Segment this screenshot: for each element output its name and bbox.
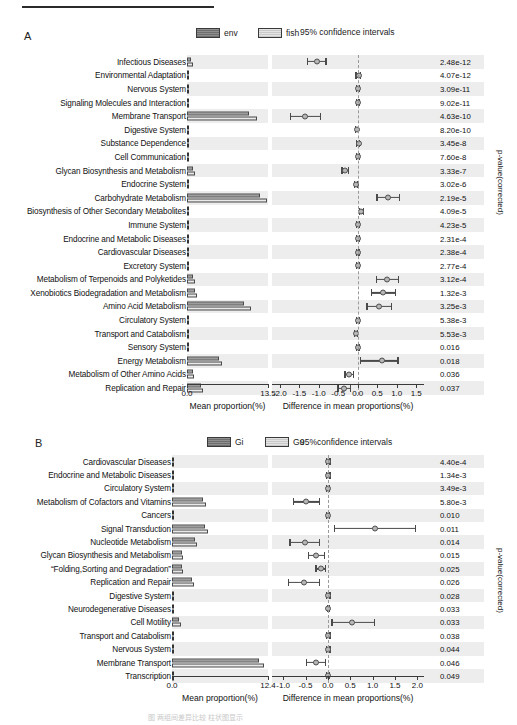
- category-label: Endocrine and Metabolic Diseases: [63, 234, 186, 243]
- row-band: [187, 55, 268, 69]
- bar-env: [187, 343, 189, 347]
- bar-pair: [172, 618, 181, 627]
- plot-row: Environmental Adaptation4.07e-12: [0, 69, 517, 83]
- bar-fish: [187, 212, 189, 216]
- plot-row: Endocrine and Metabolic Diseases2.31e-4: [0, 232, 517, 246]
- category-label: Nucleotide Metabolism: [90, 538, 171, 547]
- category-label: Cardiovascular Diseases: [83, 457, 171, 466]
- bar-fish: [187, 62, 193, 66]
- bar-pair: [187, 356, 222, 365]
- category-label: Cell Motility: [130, 618, 171, 627]
- panel-b-left-axis-title: Mean proportion(%): [172, 693, 268, 703]
- pvalue-label: 3.25e-3: [440, 302, 466, 311]
- ci-cap: [395, 289, 396, 296]
- plot-row: Cardiovascular Diseases2.38e-4: [0, 245, 517, 259]
- bar-gu: [172, 476, 174, 480]
- bar-pair: [187, 152, 189, 161]
- axis-line: [172, 676, 268, 677]
- plot-row: Neurodegenerative Diseases0.033: [0, 602, 517, 615]
- axis-tick-label: 0.5: [372, 389, 383, 398]
- bar-pair: [187, 57, 193, 66]
- confidence-interval-marker: [359, 207, 364, 216]
- ci-cap: [319, 579, 320, 586]
- bar-env: [187, 166, 193, 170]
- plot-row: Metabolism of Terpenoids and Polyketides…: [0, 273, 517, 287]
- zero-reference-line: [358, 55, 359, 395]
- panel-b-right-axis: -1.0-0.50.00.51.01.52.0: [272, 676, 424, 686]
- ci-cap: [307, 58, 308, 65]
- axis-tick: [319, 384, 320, 388]
- category-label: Circulatory System: [119, 316, 186, 325]
- plot-row: Metabolism of Other Amino Acids0.036: [0, 368, 517, 382]
- bar-gu: [172, 489, 174, 493]
- ci-cap: [324, 552, 325, 559]
- axis-tick: [172, 676, 173, 680]
- plot-row: Membrane Transport4.63e-10: [0, 109, 517, 123]
- bar-gu: [172, 529, 208, 533]
- category-label: Membrane Transport: [112, 112, 186, 121]
- bar-gu: [172, 609, 174, 613]
- bar-env: [187, 302, 244, 306]
- bar-env: [187, 180, 189, 184]
- bar-env: [187, 329, 189, 333]
- bar-pair: [172, 578, 194, 587]
- confidence-interval-marker: [344, 370, 353, 379]
- bar-fish: [187, 225, 189, 229]
- axis-tick-label: 1.5: [389, 681, 400, 690]
- pvalue-label: 9.02e-11: [440, 98, 470, 107]
- bar-gi: [172, 645, 174, 649]
- bar-env: [187, 98, 189, 102]
- row-band: [187, 273, 268, 287]
- bar-pair: [187, 166, 195, 175]
- legend-item-fish: fish: [258, 28, 299, 38]
- ci-cap: [376, 276, 377, 283]
- pvalue-label: 0.025: [440, 564, 460, 573]
- bar-env: [187, 316, 189, 320]
- pvalue-label: 0.033: [440, 618, 460, 627]
- bar-pair: [172, 457, 174, 466]
- panel-b-left-axis: 0.012.4: [172, 676, 268, 686]
- bar-pair: [187, 261, 189, 270]
- bar-env: [187, 152, 189, 156]
- legend-swatch-icon: [196, 28, 220, 38]
- bar-pair: [187, 125, 189, 134]
- plot-row: Endocrine System3.02e-6: [0, 177, 517, 191]
- category-label: Transport and Catabolism: [95, 329, 187, 338]
- category-label: Glycan Biosynthesis and Metabolism: [56, 166, 186, 175]
- category-label: Substance Dependence: [101, 139, 186, 148]
- bar-gu: [172, 462, 174, 466]
- category-label: Nervous System: [112, 645, 171, 654]
- plot-row: Biosynthesis of Other Secondary Metaboli…: [0, 205, 517, 219]
- ci-cap: [325, 659, 326, 666]
- bar-gi: [172, 471, 174, 475]
- bar-env: [187, 275, 193, 279]
- pvalue-label: 0.015: [440, 551, 460, 560]
- pvalue-label: 0.014: [440, 538, 460, 547]
- bar-env: [187, 220, 189, 224]
- plot-row: Membrane Transport0.046: [0, 656, 517, 669]
- bar-fish: [187, 334, 189, 338]
- pvalue-label: 0.011: [440, 524, 459, 533]
- bar-fish: [187, 117, 257, 121]
- category-label: Transcription: [125, 671, 171, 680]
- bar-fish: [187, 103, 189, 107]
- plot-row: Amino Acid Metabolism3.25e-3: [0, 300, 517, 314]
- category-label: Energy Metabolism: [118, 356, 186, 365]
- axis-line: [272, 384, 424, 385]
- bar-env: [187, 370, 193, 374]
- bar-gi: [172, 564, 182, 568]
- category-label: Circulatory System: [104, 484, 171, 493]
- bar-gi: [172, 538, 195, 542]
- pvalue-label: 3.49e-3: [440, 484, 466, 493]
- bar-env: [187, 139, 189, 143]
- category-label: Nervous System: [127, 84, 186, 93]
- bar-pair: [187, 288, 197, 297]
- bar-pair: [172, 511, 174, 520]
- bar-gi: [172, 457, 174, 461]
- zero-reference-line: [328, 455, 329, 683]
- legend-label: Gi: [235, 437, 244, 447]
- bar-pair: [187, 234, 189, 243]
- axis-tick-label: 0.0: [166, 681, 177, 690]
- pvalue-label: 0.028: [440, 591, 460, 600]
- bar-pair: [172, 497, 206, 506]
